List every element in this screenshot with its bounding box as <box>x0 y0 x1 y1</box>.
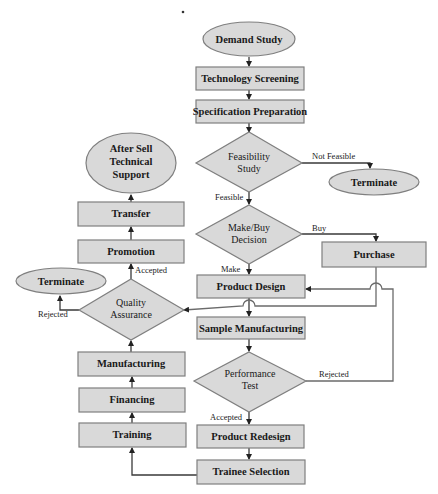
svg-text:Training: Training <box>113 429 153 440</box>
svg-text:Financing: Financing <box>110 394 156 405</box>
svg-text:Transfer: Transfer <box>112 208 151 219</box>
node-product-design: Product Design <box>197 275 305 298</box>
node-specification-preparation: Specification Preparation <box>193 100 308 123</box>
node-technology-screening: Technology Screening <box>196 67 304 90</box>
svg-text:Terminate: Terminate <box>38 276 85 287</box>
svg-text:Product Redesign: Product Redesign <box>211 431 291 442</box>
node-transfer: Transfer <box>78 202 184 226</box>
node-terminate-left: Terminate <box>16 268 106 294</box>
node-training: Training <box>79 423 186 447</box>
flowchart: Not Feasible Feasible Buy Make Rejected … <box>0 0 438 494</box>
node-sample-manufacturing: Sample Manufacturing <box>197 317 305 339</box>
node-feasibility-study: Feasibility Study <box>196 132 302 192</box>
node-after-sell-technical-support: After Sell Technical Support <box>86 133 176 193</box>
stray-dot <box>182 11 185 14</box>
svg-text:Promotion: Promotion <box>107 246 155 257</box>
svg-text:Make/Buy: Make/Buy <box>228 222 270 233</box>
svg-text:Specification Preparation: Specification Preparation <box>193 106 308 117</box>
label-make: Make <box>221 264 241 274</box>
node-product-redesign: Product Redesign <box>197 425 304 448</box>
svg-text:Technical: Technical <box>110 156 153 167</box>
label-not-feasible: Not Feasible <box>312 151 355 161</box>
svg-text:Study: Study <box>237 163 260 174</box>
label-qa-accepted: Accepted <box>135 265 168 275</box>
svg-text:After Sell: After Sell <box>110 143 153 154</box>
node-purchase: Purchase <box>322 242 426 267</box>
label-buy: Buy <box>312 223 327 233</box>
svg-text:Performance: Performance <box>224 368 276 379</box>
label-feasible: Feasible <box>215 192 244 202</box>
svg-text:Purchase: Purchase <box>353 249 395 260</box>
svg-text:Manufacturing: Manufacturing <box>97 358 166 369</box>
svg-text:Test: Test <box>242 380 259 391</box>
svg-text:Support: Support <box>113 169 150 180</box>
node-make-buy-decision: Make/Buy Decision <box>196 205 302 264</box>
label-perf-rejected: Rejected <box>319 369 349 379</box>
label-perf-accepted: Accepted <box>210 412 243 422</box>
svg-text:Trainee Selection: Trainee Selection <box>212 466 289 477</box>
svg-text:Decision: Decision <box>231 234 267 245</box>
node-manufacturing: Manufacturing <box>78 352 185 376</box>
svg-text:Terminate: Terminate <box>351 177 398 188</box>
node-trainee-selection: Trainee Selection <box>197 460 305 484</box>
label-qa-rejected: Rejected <box>38 309 68 319</box>
svg-text:Sample Manufacturing: Sample Manufacturing <box>199 323 304 334</box>
svg-text:Product Design: Product Design <box>217 281 286 292</box>
node-demand-study: Demand Study <box>203 22 295 56</box>
node-performance-test: Performance Test <box>194 352 306 412</box>
node-terminate-right: Terminate <box>329 169 419 195</box>
svg-text:Assurance: Assurance <box>110 309 152 320</box>
node-financing: Financing <box>79 388 185 412</box>
svg-text:Demand Study: Demand Study <box>216 34 284 45</box>
node-promotion: Promotion <box>78 240 184 263</box>
svg-text:Technology Screening: Technology Screening <box>201 73 299 84</box>
svg-text:Quality: Quality <box>116 297 146 308</box>
svg-text:Feasibility: Feasibility <box>228 151 270 162</box>
